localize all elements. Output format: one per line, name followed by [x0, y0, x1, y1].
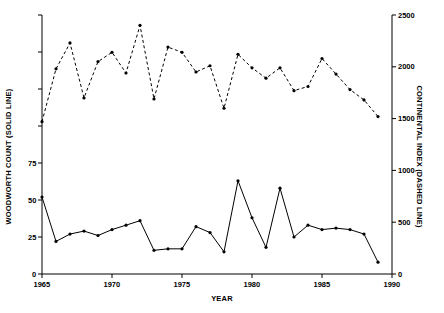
x-axis-title: YEAR [0, 294, 444, 303]
data-point [166, 46, 169, 49]
data-point [180, 51, 183, 54]
data-point [124, 224, 127, 227]
data-point [68, 41, 71, 44]
data-point [250, 216, 253, 219]
data-point [54, 240, 57, 243]
data-point [292, 89, 295, 92]
data-point [222, 107, 225, 110]
data-point [152, 97, 155, 100]
data-point [166, 247, 169, 250]
data-point [40, 120, 43, 123]
y-tick-label-left: 50 [28, 196, 36, 205]
data-point [278, 187, 281, 190]
data-point [194, 225, 197, 228]
data-point [320, 228, 323, 231]
data-point [96, 60, 99, 63]
x-tick-label: 1965 [34, 280, 51, 289]
data-point [208, 231, 211, 234]
chart-container: WOODWORTH COUNT (SOLID LINE) CONTINENTAL… [0, 0, 444, 313]
data-point [362, 98, 365, 101]
x-tick-label: 1980 [244, 280, 261, 289]
data-point [82, 96, 85, 99]
y-tick-label-left: 0 [32, 270, 36, 279]
x-tick-label: 1970 [104, 280, 121, 289]
data-point [334, 227, 337, 230]
y-axis-right-title: CONTINENTAL INDEX (DASHED LINE) [412, 0, 428, 313]
data-point [110, 228, 113, 231]
data-point [194, 70, 197, 73]
data-point [250, 66, 253, 69]
data-point [320, 57, 323, 60]
data-point [362, 232, 365, 235]
data-point [138, 24, 141, 27]
data-point [110, 51, 113, 54]
data-point [236, 53, 239, 56]
data-point [264, 77, 267, 80]
data-point [82, 229, 85, 232]
data-point [40, 195, 43, 198]
y-tick-label-left: 25 [28, 233, 36, 242]
y-tick-label-right: 0 [398, 270, 402, 279]
y-tick-label-left: 75 [28, 159, 36, 168]
data-point [334, 72, 337, 75]
data-point [96, 234, 99, 237]
data-point [68, 232, 71, 235]
y-tick-label-right: 1500 [398, 114, 415, 123]
data-point [138, 219, 141, 222]
series-line-0 [42, 181, 378, 262]
series-line-1 [42, 25, 378, 121]
y-tick-label-right: 2500 [398, 11, 415, 20]
y-tick-label-right: 1000 [398, 166, 415, 175]
x-tick-label: 1990 [384, 280, 401, 289]
data-point [292, 235, 295, 238]
y-axis-left-title: WOODWORTH COUNT (SOLID LINE) [0, 0, 16, 313]
axes [38, 15, 396, 278]
plot-area [0, 0, 444, 313]
data-series [40, 24, 379, 264]
data-point [124, 71, 127, 74]
data-point [54, 67, 57, 70]
data-point [376, 261, 379, 264]
data-point [208, 64, 211, 67]
data-point [264, 246, 267, 249]
data-point [278, 66, 281, 69]
x-tick-label: 1975 [174, 280, 191, 289]
data-point [348, 88, 351, 91]
y-tick-label-right: 500 [398, 218, 411, 227]
x-tick-label: 1985 [314, 280, 331, 289]
y-tick-label-right: 2000 [398, 62, 415, 71]
data-point [376, 115, 379, 118]
data-point [306, 85, 309, 88]
data-point [222, 250, 225, 253]
data-point [306, 224, 309, 227]
data-point [180, 247, 183, 250]
data-point [152, 249, 155, 252]
data-point [348, 228, 351, 231]
data-point [236, 179, 239, 182]
